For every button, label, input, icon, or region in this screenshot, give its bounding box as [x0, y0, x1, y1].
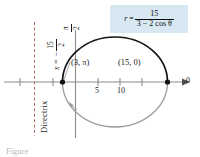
- vertical-axis-label: π 2: [61, 24, 81, 33]
- tick-label-10: 10: [117, 86, 125, 95]
- equation-equals: =: [129, 15, 134, 23]
- directrix-equation-lhs: x = −: [52, 52, 61, 70]
- equation-denominator: 3 − 2 cos θ: [135, 20, 174, 28]
- directrix-equation-label: x = − 15 2: [46, 39, 66, 70]
- pi-half-numerator: π: [61, 24, 70, 32]
- equation-lhs: r: [124, 15, 127, 23]
- tick-label-5: 5: [95, 86, 99, 95]
- pi-half-fraction: π 2: [61, 24, 81, 32]
- polar-conic-figure: r = 15 3 − 2 cos θ Directrix x = − 15 2 …: [0, 0, 200, 157]
- pi-half-denominator: 2: [72, 24, 81, 32]
- directrix-equation-denominator: 2: [57, 41, 66, 49]
- point-label-15-0: (15, 0): [118, 57, 141, 67]
- equation-callout: r = 15 3 − 2 cos θ: [110, 5, 188, 33]
- vertex-dot-right: [165, 79, 170, 84]
- directrix-equation-numerator: 15: [46, 39, 55, 51]
- ellipse-lower-arc: [63, 82, 168, 127]
- figure-caption: Figure: [6, 146, 196, 156]
- polar-axis: [4, 79, 190, 86]
- polar-equation: r = 15 3 − 2 cos θ: [124, 10, 174, 28]
- equation-fraction: 15 3 − 2 cos θ: [135, 10, 174, 28]
- polar-axis-label: 0: [186, 76, 190, 85]
- vertex-dot-left: [60, 79, 65, 84]
- directrix-label: Directrix: [39, 101, 49, 133]
- point-label-3-pi: (3, π): [71, 57, 89, 67]
- equation-numerator: 15: [147, 10, 161, 18]
- directrix-equation-fraction: 15 2: [46, 39, 66, 51]
